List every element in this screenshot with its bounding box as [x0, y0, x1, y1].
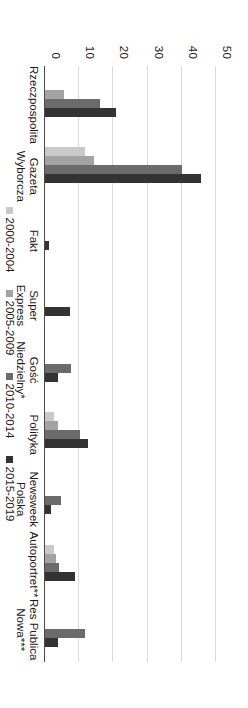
y-axis-tick-label: 0: [50, 52, 62, 59]
x-axis-baseline: [44, 66, 46, 662]
bar-group: [44, 397, 232, 463]
bar: [44, 99, 100, 108]
y-axis-tick-label: 40: [187, 46, 199, 59]
bar: [44, 174, 201, 183]
chart-figure-rotator: 01020304050 RzeczpospolitaGazeta Wyborcz…: [0, 0, 248, 708]
bar-group: [44, 463, 232, 529]
bar: [44, 364, 71, 373]
legend-swatch-icon: [7, 373, 14, 380]
bar: [44, 147, 85, 156]
legend-label: 2015-2019: [4, 467, 16, 522]
bar: [44, 439, 88, 448]
x-axis-category-labels: RzeczpospolitaGazeta WyborczaFaktSuper E…: [15, 66, 40, 662]
bar: [44, 563, 59, 572]
x-axis-label: Newsweek Polska: [15, 467, 40, 532]
bar-group: [44, 132, 232, 198]
x-axis-label: Autoportret**: [15, 532, 40, 598]
y-axis-tick-label: 10: [84, 46, 96, 59]
bar-groups: [44, 66, 232, 662]
bar: [44, 496, 61, 505]
x-axis-label: Rzeczpospolita: [15, 66, 40, 144]
bar: [44, 108, 116, 117]
bar: [44, 156, 94, 165]
legend-swatch-icon: [7, 207, 14, 214]
chart-legend: 2000-20042005-20092010-20142015-2019: [4, 66, 16, 662]
x-axis-label: Super Express: [15, 273, 40, 338]
bar: [44, 307, 70, 316]
legend-item[interactable]: 2000-2004: [4, 207, 16, 273]
x-axis-label: Gość Niedzielny*: [15, 338, 40, 403]
x-axis-label: Polityka: [15, 402, 40, 467]
bar-group: [44, 198, 232, 264]
legend-label: 2000-2004: [4, 218, 16, 273]
bar: [44, 638, 58, 647]
plot-area: 01020304050: [44, 66, 232, 662]
bar-group: [44, 331, 232, 397]
bar-group: [44, 66, 232, 132]
bar-group: [44, 265, 232, 331]
y-axis-tick-label: 50: [221, 46, 233, 59]
x-axis-label: Gazeta Wyborcza: [15, 144, 40, 209]
bar: [44, 421, 58, 430]
y-axis-tick-label: 30: [153, 46, 165, 59]
bar: [44, 629, 85, 638]
legend-item[interactable]: 2005-2009: [4, 290, 16, 356]
bar-group: [44, 530, 232, 596]
legend-swatch-icon: [7, 456, 14, 463]
legend-label: 2010-2014: [4, 384, 16, 439]
legend-item[interactable]: 2015-2019: [4, 456, 16, 522]
bar: [44, 165, 182, 174]
legend-item[interactable]: 2010-2014: [4, 373, 16, 439]
legend-swatch-icon: [7, 290, 14, 297]
bar: [44, 373, 58, 382]
y-axis-tick-label: 20: [118, 46, 130, 59]
bar-group: [44, 596, 232, 662]
bar: [44, 572, 75, 581]
bar: [44, 554, 56, 563]
bar: [44, 545, 54, 554]
bar-chart-figure: 01020304050 RzeczpospolitaGazeta Wyborcz…: [0, 0, 248, 708]
bar: [44, 430, 80, 439]
bar: [44, 412, 54, 421]
bar: [44, 90, 65, 99]
x-axis-label: Fakt: [15, 209, 40, 274]
x-axis-label: Res Publica Nowa***: [15, 597, 40, 662]
legend-label: 2005-2009: [4, 301, 16, 356]
